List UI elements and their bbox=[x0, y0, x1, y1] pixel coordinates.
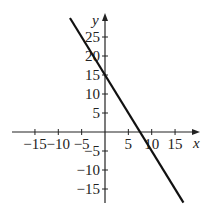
y-axis-arrow-icon bbox=[102, 13, 108, 21]
y-tick-label: 10 bbox=[85, 86, 100, 102]
y-tick-label: −15 bbox=[77, 181, 100, 197]
x-axis-label: x bbox=[192, 135, 200, 151]
chart-svg: −15−10−551015−15−10−5510152025 x y bbox=[0, 0, 208, 216]
y-axis-label: y bbox=[90, 12, 99, 28]
x-tick-label: −10 bbox=[47, 136, 70, 152]
x-tick-label: −15 bbox=[23, 136, 46, 152]
y-tick-label: −10 bbox=[77, 162, 100, 178]
y-tick-label: 5 bbox=[93, 105, 101, 121]
y-tick-label: 25 bbox=[85, 29, 100, 45]
axes bbox=[12, 13, 200, 203]
line-chart: −15−10−551015−15−10−5510152025 x y bbox=[0, 0, 208, 216]
y-tick-label: −5 bbox=[84, 143, 100, 159]
x-tick-label: 15 bbox=[168, 136, 183, 152]
x-tick-label: 5 bbox=[125, 136, 133, 152]
y-tick-label: 15 bbox=[85, 67, 100, 83]
